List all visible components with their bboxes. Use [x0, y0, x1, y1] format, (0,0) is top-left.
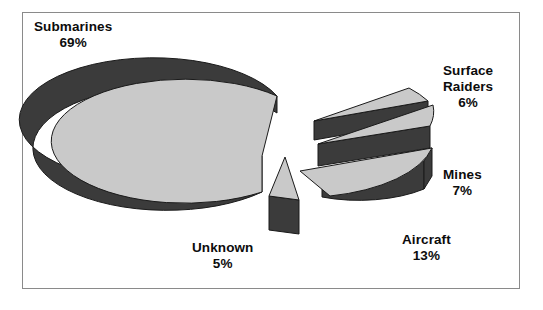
label-aircraft: Aircraft 13%	[402, 232, 451, 264]
label-unknown: Unknown 5%	[192, 240, 253, 272]
pie-chart-figure: Submarines 69% Surface Raiders 6% Mines …	[0, 0, 543, 310]
label-submarines-pct: 69%	[34, 35, 112, 51]
label-unknown-pct: 5%	[192, 256, 253, 272]
label-surface-raiders-name-line1: Surface	[443, 63, 493, 79]
label-aircraft-name: Aircraft	[402, 232, 451, 248]
label-aircraft-pct: 13%	[402, 248, 451, 264]
label-surface-raiders-name-line2: Raiders	[443, 79, 493, 95]
label-surface-raiders: Surface Raiders 6%	[443, 63, 493, 111]
label-mines-pct: 7%	[443, 183, 482, 199]
label-submarines: Submarines 69%	[34, 19, 112, 51]
label-submarines-name: Submarines	[34, 19, 112, 35]
label-unknown-name: Unknown	[192, 240, 253, 256]
label-mines-name: Mines	[443, 167, 482, 183]
label-surface-raiders-pct: 6%	[443, 95, 493, 111]
label-mines: Mines 7%	[443, 167, 482, 199]
